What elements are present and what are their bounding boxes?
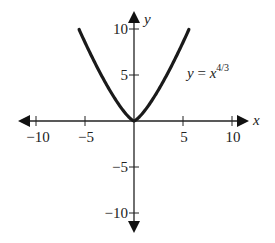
chart-canvas: −10 −5 5 10 10 5 −5 −10 y x y = x4/3 — [0, 0, 275, 243]
x-tick-label: −10 — [26, 129, 49, 145]
x-axis-label: x — [252, 112, 260, 128]
equation-label: y = x4/3 — [185, 62, 229, 81]
y-tick-label: −5 — [112, 159, 128, 175]
x-tick-label: 10 — [226, 129, 241, 145]
y-tick-label: −10 — [105, 205, 128, 221]
x-tick-label: 5 — [180, 129, 188, 145]
y-axis-up-arrow-icon — [128, 11, 140, 23]
x-axis-left-arrow-icon — [18, 115, 30, 127]
y-axis-label: y — [142, 11, 151, 27]
y-tick-label: 5 — [121, 67, 129, 83]
y-tick-label: 10 — [113, 21, 128, 37]
x-tick-label: −5 — [78, 129, 94, 145]
x-axis-right-arrow-icon — [237, 115, 249, 127]
y-axis-down-arrow-icon — [128, 221, 140, 233]
